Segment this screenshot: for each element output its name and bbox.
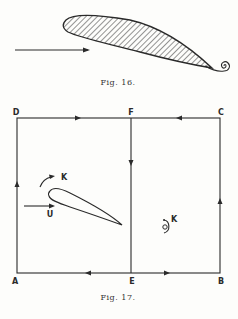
arrow-left-CF-icon	[176, 116, 182, 121]
aerofoil-outline	[49, 189, 122, 225]
figure-16: Fig. 16.	[15, 16, 229, 88]
arrow-down-FE-icon	[129, 160, 134, 166]
circulation-arrow-head-icon	[49, 175, 55, 180]
vortex-arc-dot	[163, 219, 165, 221]
arrow-right-DF-icon	[75, 116, 81, 121]
flow-arrow-head-icon	[83, 48, 90, 53]
label-D: D	[13, 108, 20, 117]
circulation-arc	[40, 177, 51, 187]
label-A: A	[12, 277, 19, 286]
arrow-up-BC-icon	[218, 198, 223, 204]
label-vortex-K: K	[171, 215, 178, 224]
trailing-vortex-spiral-icon	[222, 62, 230, 71]
arrow-up-AD-icon	[15, 181, 20, 187]
label-circulation-K: K	[61, 173, 68, 182]
label-F: F	[128, 108, 133, 117]
label-B: B	[218, 277, 224, 286]
shed-vortex-icon	[163, 225, 167, 229]
label-E: E	[129, 277, 134, 286]
contour-rectangle	[17, 118, 220, 273]
figure-17: D F C A E B K U K Fig. 17.	[12, 108, 224, 302]
arrow-left-EA-icon	[85, 271, 91, 276]
label-U: U	[47, 210, 54, 219]
figure-17-caption: Fig. 17.	[100, 293, 135, 302]
hatched-aerofoil	[63, 16, 212, 69]
vortex-rotation-arc	[164, 220, 169, 233]
label-C: C	[218, 108, 224, 117]
figure-canvas: Fig. 16. D F C A E B K U K	[0, 0, 238, 319]
flow-U-arrow-head-icon	[49, 204, 55, 209]
arrow-right-EB-icon	[164, 271, 170, 276]
figure-16-caption: Fig. 16.	[100, 78, 135, 87]
